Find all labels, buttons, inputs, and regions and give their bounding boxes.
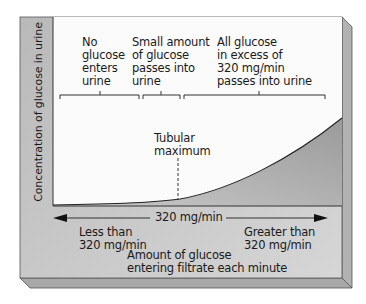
region-small-amount-label: Small amount of glucose passes into urin… [132, 36, 210, 88]
label-line: entering filtrate each minute [127, 262, 287, 275]
diagram: Concentration of glucose in urine No glu… [0, 0, 366, 304]
x-axis-label: Amount of glucose entering filtrate each… [127, 249, 287, 275]
label-line: urine [82, 75, 125, 88]
box-bottom-face [20, 278, 352, 288]
axis-center-label: 320 mg/min [155, 211, 223, 224]
label-line: passes into urine [217, 75, 312, 88]
box-side-face [342, 17, 352, 288]
y-axis-label: Concentration of glucose in urine [32, 22, 45, 202]
tubular-maximum-label: Tubular maximum [154, 132, 211, 158]
region-all-glucose-label: All glucose in excess of 320 mg/min pass… [217, 36, 312, 88]
region-no-glucose-label: No glucose enters urine [82, 36, 125, 88]
label-line: urine [132, 75, 210, 88]
label-line: maximum [154, 145, 211, 158]
